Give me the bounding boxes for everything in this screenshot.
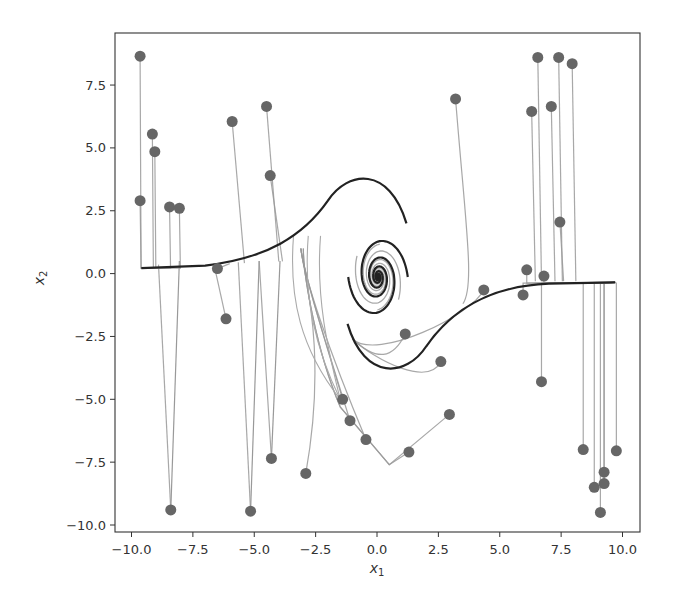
x-tick-label: −7.5	[177, 542, 209, 557]
initial-point	[337, 394, 348, 405]
initial-point	[521, 264, 532, 275]
initial-point	[221, 313, 232, 324]
y-tick-label: −7.5	[74, 455, 106, 470]
initial-point	[578, 444, 589, 455]
initial-point	[599, 467, 610, 478]
initial-point	[147, 129, 158, 140]
y-axis-label: x2	[31, 271, 49, 287]
initial-point	[518, 289, 529, 300]
initial-point	[135, 195, 146, 206]
x-axis-label: x1	[369, 560, 385, 578]
initial-point	[478, 284, 489, 295]
initial-point	[164, 201, 175, 212]
initial-point	[595, 507, 606, 518]
initial-point	[435, 356, 446, 367]
initial-point	[526, 106, 537, 117]
y-tick-label: −10.0	[66, 518, 106, 533]
y-tick-label: 2.5	[85, 203, 106, 218]
x-tick-label: 0.0	[367, 542, 388, 557]
initial-point	[261, 101, 272, 112]
y-tick-label: 0.0	[85, 266, 106, 281]
initial-point	[300, 468, 311, 479]
initial-point	[450, 93, 461, 104]
y-tick-label: 7.5	[85, 78, 106, 93]
initial-point	[567, 58, 578, 69]
initial-point	[245, 506, 256, 517]
y-axis-ticks: −10.0−7.5−5.0−2.50.02.55.07.5	[66, 78, 115, 533]
plot-canvas: −10.0−7.5−5.0−2.50.02.55.07.510.0 −10.0−…	[0, 0, 678, 610]
initial-point	[403, 447, 414, 458]
initial-point	[227, 116, 238, 127]
initial-point	[212, 263, 223, 274]
initial-point	[589, 482, 600, 493]
initial-point	[599, 478, 610, 489]
initial-point	[553, 52, 564, 63]
y-tick-label: −2.5	[74, 329, 106, 344]
initial-point	[554, 217, 565, 228]
initial-point	[265, 170, 276, 181]
x-tick-label: 5.0	[489, 542, 510, 557]
initial-point	[165, 504, 176, 515]
initial-point	[174, 203, 185, 214]
initial-point	[611, 445, 622, 456]
initial-point	[135, 51, 146, 62]
x-axis-ticks: −10.0−7.5−5.0−2.50.02.55.07.510.0	[112, 532, 637, 557]
initial-point	[444, 409, 455, 420]
y-tick-label: 5.0	[85, 140, 106, 155]
initial-point	[532, 52, 543, 63]
x-tick-label: −10.0	[112, 542, 152, 557]
initial-point	[400, 328, 411, 339]
initial-point	[536, 376, 547, 387]
phase-portrait-figure: −10.0−7.5−5.0−2.50.02.55.07.510.0 −10.0−…	[0, 0, 678, 610]
initial-point	[360, 434, 371, 445]
x-tick-label: 2.5	[428, 542, 449, 557]
x-tick-label: 10.0	[608, 542, 637, 557]
x-tick-label: −2.5	[300, 542, 332, 557]
x-tick-label: 7.5	[551, 542, 572, 557]
y-tick-label: −5.0	[74, 392, 106, 407]
x-tick-label: −5.0	[238, 542, 270, 557]
initial-point	[266, 453, 277, 464]
initial-point	[538, 271, 549, 282]
initial-point	[344, 415, 355, 426]
initial-point	[546, 101, 557, 112]
initial-point	[149, 146, 160, 157]
